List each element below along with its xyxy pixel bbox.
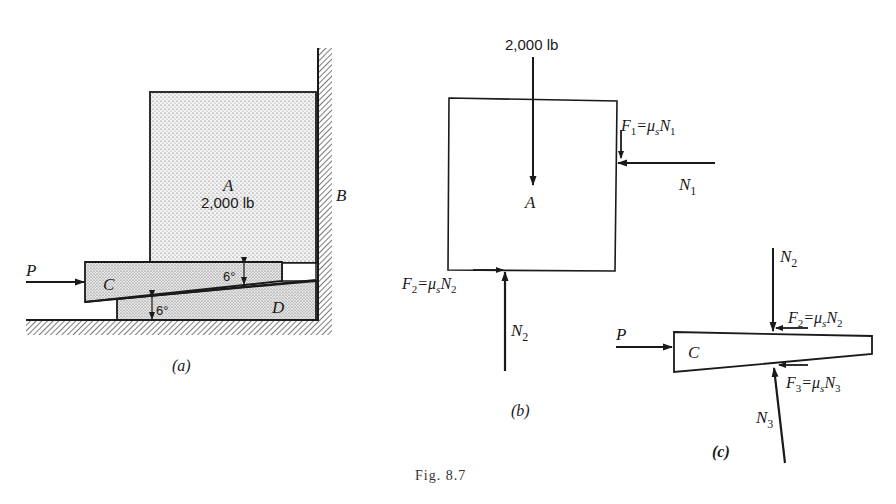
figure-caption: Fig. 8.7 <box>415 468 466 483</box>
fbd-wedge-c <box>674 332 872 372</box>
panel-a: P A 2,000 lb B C D 6° 6° (a) <box>25 48 347 375</box>
label-wedge-c-fbd: C <box>688 343 700 362</box>
label-wedge-d: D <box>271 298 285 317</box>
label-wall-b: B <box>336 186 347 205</box>
panel-a-label: (a) <box>172 357 191 375</box>
n3-arrow <box>774 368 785 463</box>
label-f3: F3=μsN3 <box>785 374 841 394</box>
label-n2-c: N2 <box>779 247 797 270</box>
label-n1: N1 <box>678 175 696 198</box>
label-p-c: P <box>615 325 626 344</box>
panel-c-label: (c) <box>712 443 730 461</box>
wall-b-hatch <box>318 48 332 335</box>
label-f1: F1=μsN1 <box>620 117 676 137</box>
label-f2-c: F2=μsN2 <box>787 309 843 329</box>
label-weight-a: 2,000 lb <box>201 194 254 211</box>
label-p: P <box>25 261 36 280</box>
label-fbd-a: A <box>524 193 536 212</box>
panel-c: N2 F2=μsN2 P C F3=μsN3 N3 (c) <box>615 247 872 463</box>
floor-hatch <box>26 320 332 335</box>
label-f2-b: F2=μsN2 <box>401 275 457 295</box>
panel-b-label: (b) <box>511 402 530 420</box>
figure-canvas: P A 2,000 lb B C D 6° 6° (a) 2,000 lb A … <box>0 0 896 504</box>
gap-space <box>282 263 316 281</box>
label-block-a: A <box>222 176 234 195</box>
label-n2-b: N2 <box>510 321 528 344</box>
label-n3: N3 <box>755 408 773 431</box>
panel-b: 2,000 lb A F1=μsN1 N1 F2=μsN2 N2 (b) <box>401 36 715 420</box>
label-angle-upper: 6° <box>223 269 235 284</box>
label-weight: 2,000 lb <box>505 36 558 53</box>
label-wedge-c: C <box>103 275 115 294</box>
label-angle-lower: 6° <box>156 303 168 318</box>
